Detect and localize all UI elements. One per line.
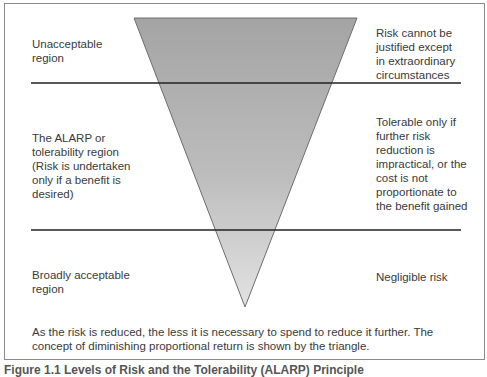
negligible-risk-description: Negligible risk	[376, 270, 448, 284]
unacceptable-region-description: Risk cannot be justified except in extra…	[376, 26, 455, 82]
diminishing-return-note: As the risk is reduced, the less it is n…	[32, 325, 472, 353]
unacceptable-region-label: Unacceptable region	[32, 37, 102, 65]
risk-triangle	[134, 18, 357, 307]
broadly-acceptable-region-label: Broadly acceptable region	[32, 268, 130, 296]
figure-caption: Figure 1.1 Levels of Risk and the Tolera…	[4, 363, 364, 377]
alarp-region-label: The ALARP or tolerability region (Risk i…	[32, 131, 130, 201]
alarp-region-description: Tolerable only if further risk reduction…	[376, 115, 467, 213]
